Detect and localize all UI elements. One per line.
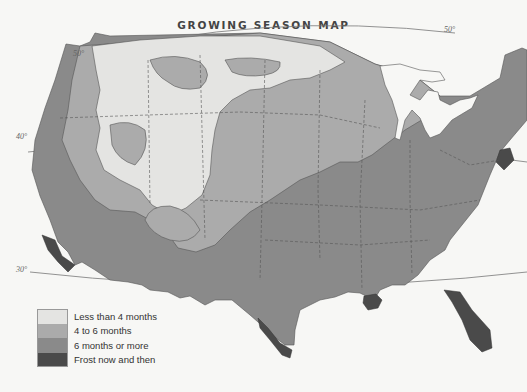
region-frost-now-and-then — [363, 294, 382, 310]
legend-swatch-frost-now-and-then — [37, 353, 68, 368]
legend-swatch-6-months-or-more — [37, 338, 68, 353]
legend-item: 6 months or more — [37, 338, 157, 353]
latitude-label-50-right: 50° — [444, 25, 455, 34]
map-legend: Less than 4 months 4 to 6 months 6 month… — [37, 309, 157, 367]
latitude-label-50-left: 50° — [73, 49, 84, 58]
legend-label: Less than 4 months — [74, 311, 157, 322]
legend-item: Frost now and then — [37, 353, 157, 368]
latitude-label-40: 40° — [16, 132, 27, 141]
legend-label: 6 months or more — [74, 340, 148, 351]
legend-label: Frost now and then — [74, 354, 155, 365]
legend-swatch-less-than-4-months — [37, 309, 68, 324]
legend-item: Less than 4 months — [37, 309, 157, 324]
region-frost-now-and-then — [444, 290, 492, 352]
legend-swatch-4-to-6-months — [37, 324, 68, 339]
legend-item: 4 to 6 months — [37, 324, 157, 339]
legend-label: 4 to 6 months — [74, 325, 132, 336]
latitude-label-30: 30° — [16, 265, 27, 274]
